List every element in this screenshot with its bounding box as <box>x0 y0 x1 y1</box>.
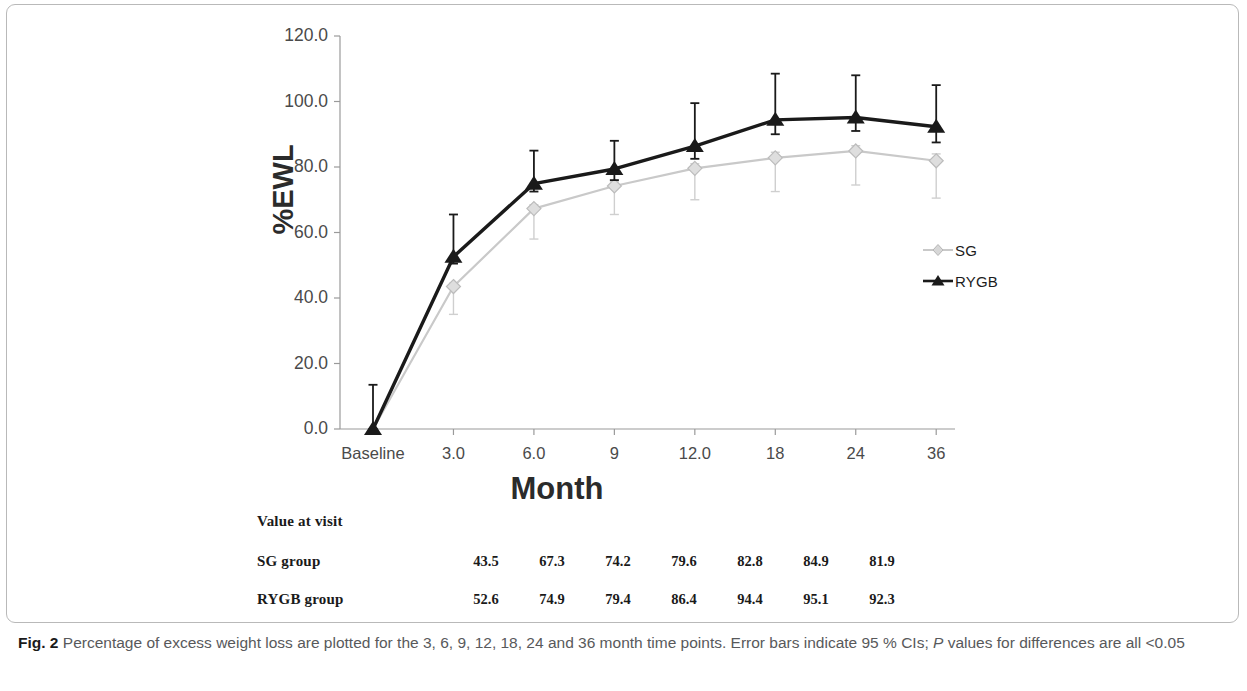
y-tick-label: 120.0 <box>250 25 328 46</box>
x-tick-label: 24 <box>811 444 901 463</box>
chart-series-group <box>364 74 945 435</box>
caption-italic-p: P <box>933 634 943 651</box>
table-cell: 92.3 <box>849 591 915 608</box>
table-cell: 43.5 <box>453 553 519 570</box>
y-tick-label: 0.0 <box>250 418 328 439</box>
y-axis-title: %EWL <box>267 130 300 250</box>
table-row: RYGB group52.674.979.486.494.495.192.3 <box>257 591 957 608</box>
error-bar <box>932 85 941 142</box>
x-tick-label: Baseline <box>328 444 418 463</box>
table-cell: 84.9 <box>783 553 849 570</box>
data-point-marker <box>688 161 702 175</box>
table-cell: 79.6 <box>651 553 717 570</box>
legend-label-rygb: RYGB <box>955 273 998 290</box>
table-cell: 86.4 <box>651 591 717 608</box>
table-cell: 74.9 <box>519 591 585 608</box>
data-point-marker <box>929 154 943 168</box>
caption-figure-number: Fig. 2 <box>18 634 58 651</box>
table-row-label: SG group <box>257 553 453 570</box>
table-cell: 74.2 <box>585 553 651 570</box>
x-tick-label: 3.0 <box>408 444 498 463</box>
table-cell: 79.4 <box>585 591 651 608</box>
table-cell: 67.3 <box>519 553 585 570</box>
table-cell: 52.6 <box>453 591 519 608</box>
table-row-label: RYGB group <box>257 591 453 608</box>
caption-text: Percentage of excess weight loss are plo… <box>63 634 929 651</box>
triangle-marker-icon <box>923 274 953 288</box>
y-tick-label: 100.0 <box>250 91 328 112</box>
diamond-marker-icon <box>923 243 953 257</box>
figure-panel: 0.020.040.060.080.0100.0120.0 Baseline3.… <box>6 4 1239 623</box>
chart-axes <box>334 36 955 435</box>
x-tick-label: 6.0 <box>489 444 579 463</box>
x-axis-title: Month <box>407 471 707 507</box>
data-point-marker <box>768 151 782 165</box>
table-cell: 94.4 <box>717 591 783 608</box>
x-tick-label: 9 <box>569 444 659 463</box>
chart-legend: SG RYGB <box>923 238 998 300</box>
x-tick-label: 18 <box>730 444 820 463</box>
x-tick-label: 36 <box>891 444 981 463</box>
table-cell: 82.8 <box>717 553 783 570</box>
x-tick-label: 12.0 <box>650 444 740 463</box>
value-table-body: SG group43.567.374.279.682.884.981.9RYGB… <box>257 553 957 608</box>
data-point-marker <box>364 421 382 435</box>
value-table-title: Value at visit <box>257 513 957 530</box>
series-line <box>373 118 936 429</box>
data-point-marker <box>607 179 621 193</box>
figure-root: 0.020.040.060.080.0100.0120.0 Baseline3.… <box>0 0 1247 691</box>
table-row: SG group43.567.374.279.682.884.981.9 <box>257 553 957 570</box>
data-point-marker <box>849 144 863 158</box>
legend-item-rygb[interactable]: RYGB <box>923 269 998 293</box>
legend-item-sg[interactable]: SG <box>923 238 998 262</box>
table-cell: 81.9 <box>849 553 915 570</box>
legend-label-sg: SG <box>955 242 977 259</box>
value-table: Value at visit SG group43.567.374.279.68… <box>257 513 957 629</box>
caption-text-tail: values for differences are all <0.05 <box>948 634 1185 651</box>
figure-caption: Fig. 2 Percentage of excess weight loss … <box>18 632 1230 655</box>
y-tick-label: 20.0 <box>250 353 328 374</box>
table-cell: 95.1 <box>783 591 849 608</box>
y-tick-label: 40.0 <box>250 287 328 308</box>
